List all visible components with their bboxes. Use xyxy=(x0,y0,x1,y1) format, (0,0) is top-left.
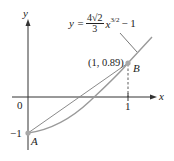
diagram: y x 0 1 −1 A B (1, 0.89) y = 4√2 3 x3/2 … xyxy=(0,0,174,161)
equation-power: x3/2 xyxy=(106,17,120,30)
origin-label: 0 xyxy=(17,100,23,111)
y-axis-arrow-icon xyxy=(26,19,31,26)
point-a-label: A xyxy=(31,136,38,147)
chord-ab xyxy=(28,63,128,133)
y-axis-label: y xyxy=(23,8,28,19)
x-tick-label-1: 1 xyxy=(125,101,131,112)
x-axis-label: x xyxy=(159,91,164,102)
point-b-coordinates: (1, 0.89) xyxy=(88,58,124,69)
point-b-label: B xyxy=(133,63,140,74)
equation-lhs: y = xyxy=(69,18,84,29)
curve-equation: y = 4√2 3 x3/2 − 1 xyxy=(69,13,136,34)
point-a xyxy=(25,130,30,135)
equation-coefficient: 4√2 3 xyxy=(86,13,104,34)
equation-leader-line xyxy=(120,33,137,52)
function-curve xyxy=(28,37,152,133)
point-b xyxy=(125,60,130,65)
x-axis-arrow-icon xyxy=(150,95,157,100)
equation-exponent: 3/2 xyxy=(110,16,119,24)
equation-coef-denominator: 3 xyxy=(86,24,104,34)
equation-tail: − 1 xyxy=(121,18,135,29)
y-tick-label-neg1: −1 xyxy=(10,128,22,139)
